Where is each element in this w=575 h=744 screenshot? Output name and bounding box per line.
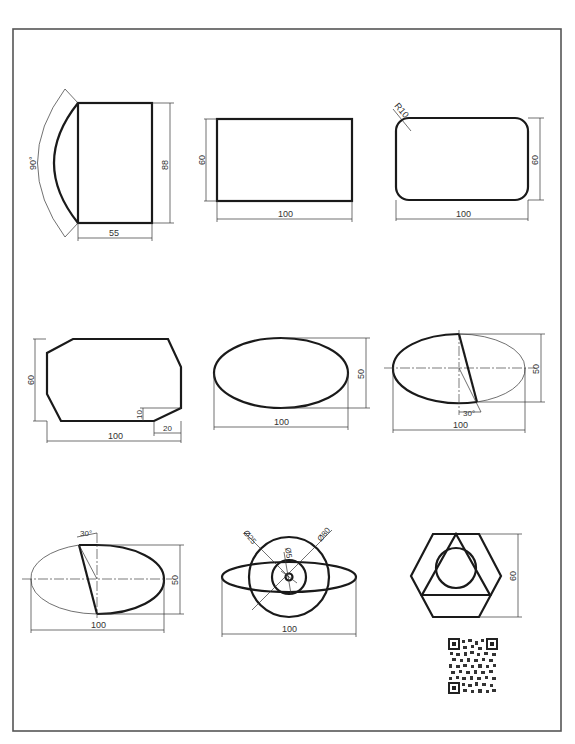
figure-3-height-label: 60 (530, 155, 540, 165)
figure-5-ellipse: 50 100 (214, 338, 370, 430)
figure-6-width-label: 100 (453, 420, 468, 430)
figure-1-angle-label: 90° (28, 156, 38, 170)
figure-8-large-diameter-label: Ø80 (316, 525, 333, 543)
figure-8-small-diameter-label: Ø5 (283, 547, 294, 560)
figure-9-hexagon: 60 (411, 534, 522, 617)
figure-5-width-label: 100 (274, 417, 289, 427)
figure-5-height-label: 50 (356, 369, 366, 379)
figure-1-rectangle-with-arc: 90° 88 55 (28, 89, 174, 241)
figure-7-ellipse-angled: 30° 50 100 (22, 529, 184, 633)
figure-3-width-label: 100 (456, 209, 471, 219)
figure-2-height-label: 60 (197, 155, 207, 165)
figure-2-width-label: 100 (278, 209, 293, 219)
figure-6-height-label: 50 (531, 364, 541, 374)
drawing-sheet: 90° 88 55 60 100 R10 60 100 (0, 0, 575, 744)
figure-6-ellipse-angled: 30° 50 100 (384, 330, 545, 433)
figure-1-height-label: 88 (160, 160, 170, 170)
figure-8-concentric-circles: Ø80 Ø25 Ø5 100 (222, 525, 356, 637)
figure-4-height-label: 60 (26, 375, 36, 385)
figure-2-rectangle: 60 100 (197, 119, 352, 222)
figure-7-angle-label: 30° (80, 529, 92, 538)
figure-1-width-label: 55 (109, 228, 119, 238)
figure-9-height-label: 60 (508, 571, 518, 581)
figure-8-width-label: 100 (282, 624, 297, 634)
qr-code (448, 638, 498, 694)
figure-7-width-label: 100 (91, 620, 106, 630)
figure-7-height-label: 50 (170, 575, 180, 585)
figure-4-chamfered-shape: 60 10 20 100 (26, 339, 181, 443)
figure-3-rounded-rectangle: R10 60 100 (392, 101, 544, 221)
figure-6-angle-label: 30° (463, 409, 475, 418)
figure-4-chamfer-v-label: 10 (135, 410, 144, 419)
figure-4-width-label: 100 (108, 431, 123, 441)
figure-4-chamfer-h-label: 20 (163, 424, 172, 433)
